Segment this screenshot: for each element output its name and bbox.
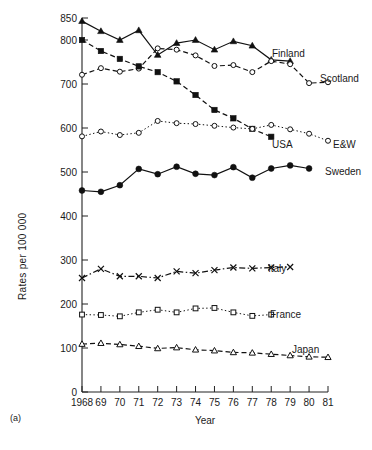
series-marker	[269, 122, 274, 127]
series-marker	[250, 126, 255, 131]
series-marker	[174, 121, 179, 126]
series-marker	[306, 166, 312, 172]
series-marker	[155, 307, 160, 312]
series-marker	[117, 133, 122, 138]
series-marker	[231, 125, 236, 130]
series-marker	[230, 38, 237, 44]
y-tick-label: 100	[60, 343, 77, 354]
series-marker	[193, 53, 198, 58]
series-label-sweden: Sweden	[325, 166, 361, 177]
series-marker	[98, 266, 104, 272]
y-tick-label: 300	[60, 255, 77, 266]
series-finland	[79, 18, 294, 64]
series-marker	[98, 48, 103, 53]
series-label-scotland: Scotland	[320, 73, 359, 84]
series-marker	[192, 37, 199, 43]
series-marker	[98, 189, 104, 195]
series-marker	[231, 63, 236, 68]
series-label-france: France	[270, 309, 302, 320]
series-marker	[79, 37, 84, 42]
series-marker	[136, 166, 142, 172]
series-marker	[136, 343, 142, 349]
series-marker	[117, 182, 123, 188]
series-line	[82, 21, 290, 61]
series-marker	[98, 66, 103, 71]
series-marker	[80, 312, 85, 317]
series-france	[80, 306, 274, 319]
series-marker	[230, 164, 236, 170]
figure-panel: 0100200300400500600700800850 19686970717…	[0, 0, 372, 450]
series-marker	[193, 122, 198, 127]
series-marker	[193, 171, 199, 177]
y-axis-ticks: 0100200300400500600700800850	[60, 13, 88, 398]
series-marker	[193, 92, 198, 97]
series-marker	[98, 28, 105, 34]
series-marker	[307, 81, 312, 86]
x-tick-label: 71	[133, 397, 145, 408]
series-marker	[136, 310, 141, 315]
series-marker	[135, 27, 142, 33]
series-line	[82, 165, 309, 191]
series-marker	[79, 188, 85, 194]
series-marker	[326, 138, 331, 143]
y-tick-label: 800	[60, 35, 77, 46]
series-line	[82, 267, 290, 278]
series-marker	[212, 306, 217, 311]
line-chart: 0100200300400500600700800850 19686970717…	[0, 0, 372, 450]
y-tick-label: 500	[60, 167, 77, 178]
series-label-finland: Finland	[272, 48, 305, 59]
series-marker	[250, 70, 255, 75]
series-marker	[174, 79, 179, 84]
series-marker	[117, 273, 123, 279]
series-marker	[212, 123, 217, 128]
y-tick-label: 200	[60, 299, 77, 310]
series-marker	[136, 130, 141, 135]
series-marker	[79, 18, 86, 24]
panel-tag: (a)	[10, 413, 21, 423]
series-marker	[155, 46, 160, 51]
series-marker	[155, 69, 160, 74]
series-marker	[287, 264, 293, 270]
series-marker	[212, 107, 217, 112]
x-tick-label: 78	[266, 397, 278, 408]
series-marker	[155, 171, 161, 177]
series-marker	[307, 131, 312, 136]
x-tick-label: 69	[95, 397, 107, 408]
x-axis-ticks: 196869707172737475767778798081	[71, 386, 334, 408]
series-marker	[287, 163, 293, 169]
series-label-usa: USA	[272, 139, 293, 150]
series-label-layer: FinlandScotlandUSAE&WSwedenItalyFranceJa…	[268, 48, 361, 355]
x-tick-label: 77	[247, 397, 259, 408]
series-marker	[136, 273, 142, 279]
series-marker	[117, 56, 122, 61]
x-tick-label: 75	[209, 397, 221, 408]
series-e-w	[80, 118, 331, 143]
series-italy	[79, 264, 293, 281]
series-marker	[174, 164, 180, 170]
series-marker	[212, 63, 217, 68]
x-tick-label: 72	[152, 397, 164, 408]
x-tick-label: 74	[190, 397, 202, 408]
series-marker	[136, 64, 141, 69]
series-marker	[250, 313, 255, 318]
series-marker	[174, 47, 179, 52]
series-marker	[174, 310, 179, 315]
y-tick-label: 600	[60, 123, 77, 134]
x-tick-label: 1968	[71, 397, 94, 408]
series-marker	[249, 175, 255, 181]
x-tick-label: 73	[171, 397, 183, 408]
y-tick-label: 850	[60, 13, 77, 24]
x-tick-label: 80	[304, 397, 316, 408]
series-label-e-w: E&W	[333, 139, 356, 150]
y-tick-label: 400	[60, 211, 77, 222]
series-marker	[288, 62, 293, 67]
x-tick-label: 79	[285, 397, 297, 408]
series-marker	[155, 118, 160, 123]
y-axis-title: Rates per 100 000	[17, 212, 28, 300]
series-marker	[269, 59, 274, 64]
series-marker	[117, 314, 122, 319]
series-marker	[99, 313, 104, 318]
series-marker	[212, 172, 218, 178]
series-label-japan: Japan	[292, 344, 319, 355]
series-marker	[80, 134, 85, 139]
